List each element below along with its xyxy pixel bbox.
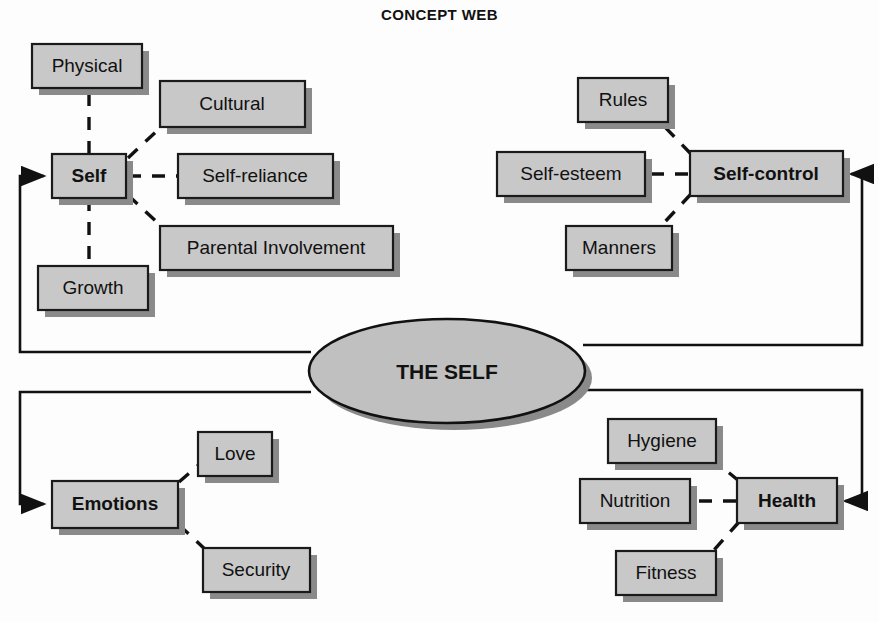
node-love[interactable]: Love <box>198 432 279 483</box>
node-emotions-label: Emotions <box>72 493 159 514</box>
node-self-esteem[interactable]: Self-esteem <box>497 152 652 203</box>
node-cultural-label: Cultural <box>199 93 264 114</box>
node-fitness[interactable]: Fitness <box>616 551 723 602</box>
node-self[interactable]: Self <box>52 154 133 205</box>
node-manners[interactable]: Manners <box>566 226 679 277</box>
node-self-esteem-label: Self-esteem <box>520 163 621 184</box>
node-cultural[interactable]: Cultural <box>160 81 312 134</box>
node-self-control[interactable]: Self-control <box>690 151 850 203</box>
node-self-reliance[interactable]: Self-reliance <box>178 154 340 205</box>
node-growth[interactable]: Growth <box>38 266 155 317</box>
node-growth-label: Growth <box>62 277 123 298</box>
node-health-label: Health <box>758 490 816 511</box>
node-manners-label: Manners <box>582 237 656 258</box>
node-physical[interactable]: Physical <box>32 44 149 95</box>
concept-web-diagram: THE SELF Physical Cultural Self Self-rel… <box>0 0 879 622</box>
node-emotions[interactable]: Emotions <box>52 481 185 535</box>
link-health-fitness <box>714 522 739 550</box>
link-self-parental <box>128 195 162 227</box>
node-self-reliance-label: Self-reliance <box>202 165 308 186</box>
center-node-label: THE SELF <box>396 360 498 383</box>
node-hygiene-label: Hygiene <box>627 430 697 451</box>
node-fitness-label: Fitness <box>635 562 696 583</box>
concept-web-canvas: CONCEPT WEB <box>0 0 879 622</box>
node-self-label: Self <box>72 165 108 186</box>
node-nutrition-label: Nutrition <box>600 490 671 511</box>
node-security-label: Security <box>222 559 291 580</box>
node-rules-label: Rules <box>599 89 648 110</box>
node-nutrition[interactable]: Nutrition <box>580 479 697 530</box>
node-security[interactable]: Security <box>203 548 317 599</box>
node-love-label: Love <box>214 443 255 464</box>
link-self-control-manners <box>661 194 691 226</box>
link-self-cultural <box>128 127 161 158</box>
node-health[interactable]: Health <box>737 478 844 530</box>
node-rules[interactable]: Rules <box>578 78 675 129</box>
node-self-control-label: Self-control <box>713 163 819 184</box>
node-hygiene[interactable]: Hygiene <box>608 419 723 470</box>
node-physical-label: Physical <box>52 55 123 76</box>
center-node-the-self[interactable]: THE SELF <box>309 319 592 430</box>
node-parental-involvement-label: Parental Involvement <box>187 237 366 258</box>
node-parental-involvement[interactable]: Parental Involvement <box>160 226 400 277</box>
